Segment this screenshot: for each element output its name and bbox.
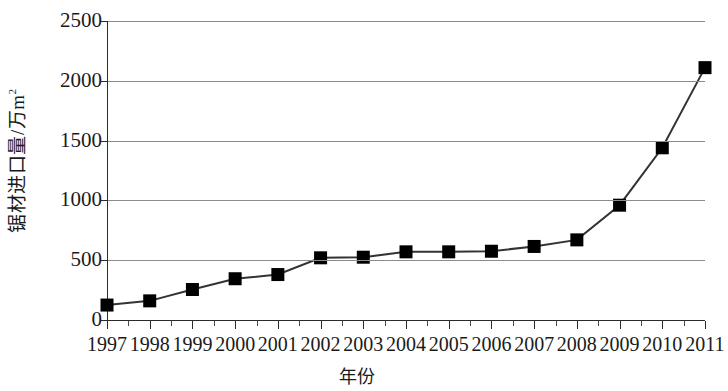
x-axis-tick-mark <box>321 321 322 329</box>
data-point-marker: 2004: 570 <box>400 245 413 258</box>
x-axis-minor-tick-mark <box>556 321 557 326</box>
gridline <box>107 81 705 82</box>
x-axis-minor-tick-mark <box>598 321 599 326</box>
x-axis-tick-mark <box>235 321 236 329</box>
y-axis-tick-label: 0 <box>34 309 102 330</box>
x-axis-tick-labels: 1997199819992000200120022003200420052006… <box>0 332 714 360</box>
x-axis-minor-tick-mark <box>641 321 642 326</box>
data-point-marker: 1999: 255 <box>186 283 199 296</box>
x-axis-minor-tick-mark <box>214 321 215 326</box>
series-line <box>107 68 705 305</box>
data-point-marker: 2001: 380 <box>271 268 284 281</box>
x-axis-tick-mark <box>449 321 450 329</box>
y-axis-tick-mark <box>101 260 108 261</box>
x-axis-minor-tick-mark <box>342 321 343 326</box>
x-axis-tick-mark <box>192 321 193 329</box>
x-axis-minor-tick-mark <box>299 321 300 326</box>
data-point-marker: 1997: 125 <box>101 299 114 312</box>
x-axis-tick-marks <box>107 321 705 330</box>
data-point-marker: 2010: 1440 <box>656 141 669 154</box>
x-axis-minor-tick-mark <box>128 321 129 326</box>
x-axis-minor-tick-mark <box>684 321 685 326</box>
x-axis-tick-mark <box>107 321 108 329</box>
data-point-marker: 2005: 570 <box>442 245 455 258</box>
x-axis-tick-mark <box>620 321 621 329</box>
x-axis-tick-mark <box>150 321 151 329</box>
x-axis-tick-mark <box>577 321 578 329</box>
gridline <box>107 200 705 201</box>
gridline <box>107 141 705 142</box>
x-axis-minor-tick-mark <box>171 321 172 326</box>
x-axis-tick-mark <box>406 321 407 329</box>
data-point-marker: 2003: 525 <box>357 251 370 264</box>
x-axis-minor-tick-mark <box>385 321 386 326</box>
y-axis-tick-label: 1500 <box>34 130 102 151</box>
y-axis-tick-mark <box>101 81 108 82</box>
x-axis-tick-mark <box>534 321 535 329</box>
y-axis-unit-superscript: 2 <box>6 88 18 94</box>
x-axis-minor-tick-mark <box>470 321 471 326</box>
y-axis-title-text: 锯材进口量/万m2 <box>2 88 29 232</box>
y-axis-tick-label: 500 <box>34 249 102 270</box>
x-axis-tick-label: 2011 <box>675 332 728 356</box>
x-axis-title: 年份 <box>0 362 714 388</box>
y-axis-tick-mark <box>101 200 108 201</box>
data-point-marker: 2002: 520 <box>314 251 327 264</box>
x-axis-tick-mark <box>491 321 492 329</box>
y-axis-tick-label: 1000 <box>34 189 102 210</box>
x-axis-minor-tick-mark <box>257 321 258 326</box>
x-axis-minor-tick-mark <box>427 321 428 326</box>
data-point-marker: 2011: 2110 <box>699 61 712 74</box>
data-point-marker: 2008: 670 <box>570 233 583 246</box>
data-series-layer: 1997: 1251998: 1601999: 2552000: 3452001… <box>107 21 705 320</box>
data-point-marker: 2000: 345 <box>229 272 242 285</box>
x-axis-tick-mark <box>705 321 706 329</box>
gridline <box>107 260 705 261</box>
x-axis-tick-mark <box>363 321 364 329</box>
data-point-marker: 2007: 615 <box>528 240 541 253</box>
plot-area: 1997: 1251998: 1601999: 2552000: 3452001… <box>107 21 705 320</box>
x-axis-tick-mark <box>662 321 663 329</box>
y-axis-title: 锯材进口量/万m2 <box>0 0 30 320</box>
y-axis-tick-mark <box>101 141 108 142</box>
data-point-marker: 1998: 160 <box>143 294 156 307</box>
y-axis-tick-label: 2000 <box>34 70 102 91</box>
y-axis-tick-labels: 05001000150020002500 <box>30 0 102 340</box>
gridline <box>107 21 705 22</box>
y-axis-tick-label: 2500 <box>34 10 102 31</box>
data-point-marker: 2006: 575 <box>485 245 498 258</box>
x-axis-tick-mark <box>278 321 279 329</box>
y-axis-tick-mark <box>101 21 108 22</box>
x-axis-minor-tick-mark <box>513 321 514 326</box>
